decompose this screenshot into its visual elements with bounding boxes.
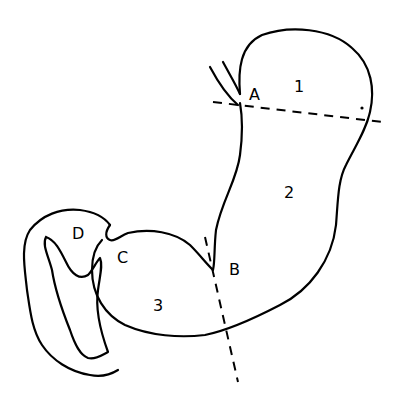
label-region-2: 2	[284, 183, 294, 202]
esophagus-line-outer	[210, 67, 238, 105]
esophagus-line-inner	[223, 62, 240, 94]
label-region-1: 1	[294, 77, 304, 96]
stomach-diagram: A 1 2 B C D 3	[0, 0, 399, 397]
duodenum-outer	[24, 210, 118, 376]
divider-line-b	[205, 237, 238, 382]
label-a: A	[249, 85, 260, 104]
label-d: D	[72, 224, 84, 243]
label-b: B	[229, 260, 240, 279]
label-region-3: 3	[153, 296, 163, 315]
marker-dot	[360, 106, 363, 109]
stomach-lesser-curvature	[106, 103, 242, 270]
label-c: C	[117, 248, 128, 267]
